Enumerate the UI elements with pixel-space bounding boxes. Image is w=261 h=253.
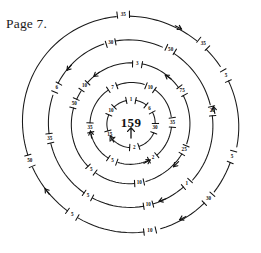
ring-2-tick-label: 35 bbox=[170, 119, 176, 125]
ring-5-tick-mark bbox=[76, 215, 79, 221]
ring-2-tick-label: 5 bbox=[111, 157, 114, 163]
ring-1-tick-label: 10 bbox=[108, 107, 114, 113]
ring-4-tick-label: 10 bbox=[146, 201, 152, 207]
ring-2-tick-mark bbox=[107, 87, 111, 92]
ring-4-tick-mark bbox=[115, 39, 116, 45]
ring-5-arc bbox=[78, 218, 143, 233]
ring-1-arc bbox=[139, 133, 153, 146]
ring-3-arc bbox=[77, 91, 81, 99]
ring-1-tick-mark bbox=[135, 97, 136, 103]
ring-1-tick-label: 30 bbox=[153, 124, 159, 130]
ring-5-arc bbox=[214, 163, 230, 192]
ring-5-tick-label: 5 bbox=[71, 211, 74, 217]
ring-1-tick-mark bbox=[126, 97, 127, 103]
ring-4-tick-mark bbox=[105, 41, 107, 47]
ring-4-arc bbox=[48, 95, 53, 134]
ring-4-arc bbox=[93, 198, 144, 207]
arrow-ring4-top-left bbox=[67, 65, 72, 70]
ring-3-tick-mark bbox=[79, 88, 84, 92]
ring-4-arc bbox=[58, 44, 104, 83]
center-layer: 159 bbox=[121, 115, 142, 138]
ring-4-tick-mark bbox=[188, 178, 193, 182]
ring-4-tick-mark bbox=[48, 142, 54, 143]
diagram-stage: Page 7. 16302151071035253537525105105030… bbox=[0, 0, 261, 253]
ring-4-arc bbox=[174, 53, 210, 104]
ring-5-arc bbox=[229, 81, 239, 147]
ring-2-arc bbox=[117, 82, 145, 85]
ring-4-arc bbox=[193, 116, 213, 180]
ring-1-arc bbox=[107, 115, 109, 131]
ring-3-tick-label: 5 bbox=[90, 166, 93, 172]
ring-1-tick-mark bbox=[149, 111, 155, 114]
ring-4-tick-mark bbox=[209, 115, 215, 116]
ring-3-arc bbox=[87, 63, 132, 83]
ring-2-arc bbox=[91, 134, 108, 158]
ring-5-tick-label: 5 bbox=[231, 153, 234, 159]
center-value: 159 bbox=[121, 115, 142, 130]
ring-1-tick-label: 6 bbox=[148, 105, 151, 111]
ring-4-tick-label: 1 bbox=[186, 180, 189, 186]
ring-5-tick-label: 5 bbox=[225, 72, 228, 78]
concentric-ring-diagram: 1630215107103525353752510510503050201105… bbox=[0, 0, 261, 253]
ring-5-tick-label: 50 bbox=[27, 157, 33, 163]
ring-5-arc bbox=[129, 16, 196, 41]
ring-2-tick-label: 35 bbox=[88, 124, 94, 130]
ring-2-arc bbox=[157, 127, 171, 155]
ring-3-arc bbox=[71, 108, 88, 166]
ring-1-arc bbox=[136, 100, 146, 104]
ring-3-tick-label: 25 bbox=[182, 146, 188, 152]
ring-2-tick-label: 7 bbox=[111, 84, 114, 90]
ring-2-tick-mark bbox=[88, 132, 94, 133]
ring-4-tick-label: 35 bbox=[47, 135, 53, 141]
ring-5-tick-mark bbox=[66, 208, 70, 213]
ring-1-arc bbox=[114, 101, 126, 107]
arrow-ring3-top-left bbox=[94, 72, 100, 76]
ring-3-tick-label: 3 bbox=[136, 60, 139, 66]
ring-4-tick-label: 6 bbox=[55, 84, 58, 90]
ring-1-tick-label: 15 bbox=[107, 131, 113, 137]
ring-4-tick-label: 50 bbox=[168, 46, 174, 52]
ring-3-tick-label: 10 bbox=[82, 82, 88, 88]
arrow-ring3-top-right bbox=[165, 75, 171, 79]
ring-1-arc bbox=[113, 140, 129, 148]
ring-5-tick-label: 10 bbox=[147, 227, 153, 233]
ring-5-tick-mark bbox=[231, 150, 237, 152]
ring-3-tick-mark bbox=[141, 61, 142, 67]
ring-5-tick-mark bbox=[205, 46, 210, 51]
ring-2-tick-label: 10 bbox=[148, 84, 154, 90]
ring-5-tick-mark bbox=[144, 229, 145, 235]
ring-3-tick-mark bbox=[143, 179, 144, 185]
ring-4-tick-label: 5 bbox=[87, 192, 90, 198]
ring-1-tick-label: 2 bbox=[133, 144, 136, 150]
ring-3-tick-label: 75 bbox=[180, 87, 186, 93]
ring-4-tick-label: 30 bbox=[108, 39, 114, 45]
ring-3-tick-mark bbox=[70, 107, 76, 109]
ring-4-tick-mark bbox=[82, 190, 86, 195]
ring-3-arc bbox=[183, 96, 190, 144]
ring-4-arc bbox=[115, 40, 162, 47]
ring-5-arc bbox=[206, 49, 220, 66]
ring-4-tick-mark bbox=[143, 203, 144, 209]
ring-3-tick-mark bbox=[182, 93, 188, 96]
ring-2-tick-label: 2 bbox=[152, 154, 155, 160]
ring-5-tick-label: 35 bbox=[201, 40, 207, 46]
ring-4-tick-label: 20 bbox=[210, 107, 216, 113]
ring-4-arc bbox=[51, 144, 84, 193]
ring-5-tick-mark bbox=[117, 12, 118, 18]
ring-3-tick-mark bbox=[179, 152, 185, 155]
ring-5-tick-mark bbox=[225, 80, 231, 83]
ring-2-tick-mark bbox=[169, 127, 175, 128]
ring-5-tick-mark bbox=[155, 227, 156, 233]
ring-2-arc bbox=[90, 90, 108, 123]
ring-3-tick-label: 10 bbox=[137, 179, 143, 185]
ring-1-arc bbox=[152, 112, 155, 123]
ring-2-tick-mark bbox=[116, 159, 118, 165]
ring-4-arc bbox=[154, 187, 184, 204]
ring-5-tick-label: 35 bbox=[121, 11, 127, 17]
ring-2-arc bbox=[155, 90, 171, 117]
ring-4-tick-mark bbox=[52, 91, 58, 93]
arrow-ring5-bottom-left bbox=[45, 189, 49, 195]
ring-5-arc bbox=[33, 167, 68, 210]
ring-1-tick-label: 1 bbox=[130, 96, 133, 102]
ring-3-tick-label: 50 bbox=[72, 100, 78, 106]
